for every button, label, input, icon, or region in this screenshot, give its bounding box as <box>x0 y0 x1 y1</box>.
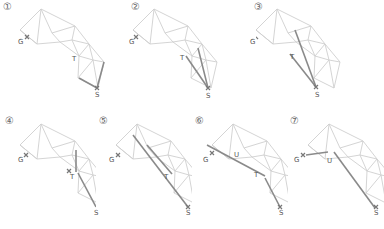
label-target: T <box>70 174 74 181</box>
label-start: S <box>206 93 210 100</box>
mesh-diagram <box>256 0 384 110</box>
panel-step-6: ⑥ G U T S <box>192 112 288 222</box>
label-goal: G <box>294 157 299 164</box>
label-target: T <box>72 56 76 63</box>
mesh-diagram <box>0 0 128 110</box>
label-goal: G <box>18 157 23 164</box>
label-start: S <box>315 92 319 99</box>
label-goal: G <box>129 39 134 46</box>
label-start: S <box>374 210 378 217</box>
label-start: S <box>95 92 99 99</box>
label-goal: G <box>250 39 255 46</box>
label-waypoint-u: U <box>234 152 239 159</box>
panel-step-2: ② G T S <box>128 0 256 110</box>
label-target: T <box>180 55 184 62</box>
mesh-diagram <box>128 0 256 110</box>
label-waypoint-u: U <box>327 158 332 165</box>
panel-step-3: ③ G T S <box>256 0 384 110</box>
label-start: S <box>186 210 190 217</box>
panel-step-5: ⑤ G T S <box>96 112 192 222</box>
label-target: T <box>164 174 168 181</box>
panel-step-4: ④ G T S <box>0 112 96 222</box>
label-target: T <box>290 54 294 61</box>
label-goal: G <box>18 39 23 46</box>
mesh-diagram <box>0 112 96 222</box>
label-target: T <box>254 172 258 179</box>
mesh-diagram <box>96 112 192 222</box>
mesh-diagram <box>192 112 288 222</box>
label-goal: G <box>203 157 208 164</box>
panel-step-7: ⑦ G U S <box>288 112 384 222</box>
mesh-diagram <box>288 112 384 222</box>
panel-step-1: ① G T S <box>0 0 128 110</box>
label-goal: G <box>109 157 114 164</box>
figure-caption <box>150 219 240 227</box>
label-start: S <box>279 210 283 217</box>
